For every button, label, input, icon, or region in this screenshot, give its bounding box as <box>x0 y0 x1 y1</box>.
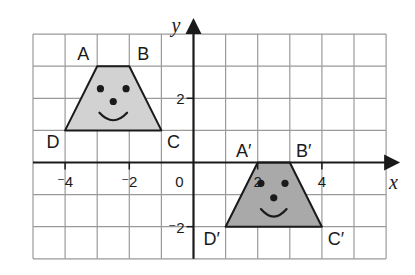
coordinate-diagram: ⁻4⁻2242⁻20xyABCDA′B′C′D′ x y <box>0 0 415 275</box>
nose-dot <box>270 194 277 201</box>
origin-label: 0 <box>175 173 183 190</box>
grid <box>33 34 386 259</box>
x-tick-label: 4 <box>318 173 326 190</box>
x-axis-label: x <box>388 171 398 193</box>
y-tick-label: ⁻2 <box>168 219 184 236</box>
eye-dot <box>97 85 104 92</box>
vertex-label-b: B <box>137 44 149 64</box>
diagram-canvas: ⁻4⁻2242⁻20xyABCDA′B′C′D′ <box>0 0 415 275</box>
y-tick-label: 2 <box>176 90 184 107</box>
eye-dot <box>122 85 129 92</box>
y-axis-arrow-icon <box>186 18 202 34</box>
vertex-label-c: C <box>167 132 180 152</box>
x-tick-label: 2 <box>254 173 262 190</box>
x-tick-label: ⁻4 <box>57 173 73 190</box>
nose-dot <box>110 98 117 105</box>
y-axis-label: y <box>170 14 181 37</box>
vertex-label-d-prime: D′ <box>203 229 220 249</box>
x-tick-label: ⁻2 <box>121 173 137 190</box>
vertex-label-d: D <box>47 132 60 152</box>
x-axis-arrow-icon <box>384 155 400 171</box>
vertex-label-a: A <box>77 44 89 64</box>
eye-dot <box>281 180 288 187</box>
vertex-label-c-prime: C′ <box>328 229 345 249</box>
vertex-label-a-prime: A′ <box>236 141 252 161</box>
vertex-label-b-prime: B′ <box>296 141 312 161</box>
